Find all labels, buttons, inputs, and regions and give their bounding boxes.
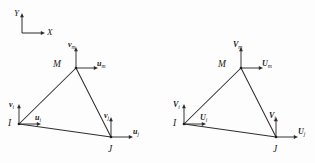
left-element-node-i-v-arrow-head bbox=[17, 104, 21, 108]
axis-label-y: Y bbox=[14, 9, 19, 18]
local-displacement-element bbox=[17, 47, 133, 139]
left-element-node-m-label: M bbox=[53, 60, 61, 70]
left-element-edge-i-j bbox=[19, 124, 111, 137]
reference-axes bbox=[20, 13, 45, 35]
right-element-node-i-dot bbox=[183, 123, 186, 126]
coordinate-axes-group bbox=[20, 13, 45, 35]
right-element-node-m-dot bbox=[240, 67, 243, 70]
right-element-node-i-u-label: Ui bbox=[200, 114, 207, 122]
left-element-node-m-u-label: um bbox=[97, 60, 106, 68]
left-element-node-i-label: I bbox=[8, 119, 11, 129]
right-element-node-i-label: I bbox=[173, 119, 176, 129]
global-displacement-element bbox=[182, 47, 298, 139]
right-element-edge-i-m bbox=[184, 68, 241, 124]
left-element-edge-i-m bbox=[19, 68, 76, 124]
left-element-node-m-v-label: vm bbox=[68, 41, 76, 49]
left-element-node-i-v-label: vi bbox=[9, 101, 14, 109]
right-element-node-m-u-label: Um bbox=[262, 60, 272, 68]
right-element-node-j-dot bbox=[275, 136, 278, 139]
right-element-node-m-label: M bbox=[218, 60, 226, 70]
left-element-node-j-u-label: uj bbox=[133, 128, 139, 136]
left-element-node-j-dot bbox=[110, 136, 113, 139]
left-element-node-j-v-label: vj bbox=[104, 112, 109, 120]
left-element-node-m-dot bbox=[75, 67, 78, 70]
diagram-canvas bbox=[0, 0, 315, 163]
left-element-node-i-u-label: ui bbox=[35, 114, 41, 122]
axis-label-x: X bbox=[47, 28, 53, 37]
right-element-edge-m-j bbox=[241, 68, 276, 137]
left-element-node-j-label: J bbox=[108, 145, 112, 155]
figure-container: YXIviuiJvjujMvmumIViUiJVjUjMVmUm bbox=[0, 0, 315, 163]
right-element-edge-i-j bbox=[184, 124, 276, 137]
left-element-node-i-dot bbox=[18, 123, 21, 126]
x-axis-arrow-head bbox=[41, 31, 45, 35]
right-element-node-i-v-label: Vi bbox=[173, 101, 180, 109]
right-element-node-i-v-arrow-head bbox=[182, 104, 186, 108]
right-element-node-m-v-label: Vm bbox=[233, 41, 242, 49]
right-element-node-j-v-label: Vj bbox=[269, 112, 276, 120]
y-axis-arrow-head bbox=[20, 13, 24, 17]
right-element-node-j-label: J bbox=[273, 145, 277, 155]
left-element-node-j-v-arrow-head bbox=[109, 117, 113, 121]
right-element-node-j-u-label: Uj bbox=[298, 128, 305, 136]
left-element-edge-m-j bbox=[76, 68, 111, 137]
